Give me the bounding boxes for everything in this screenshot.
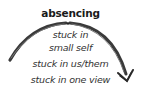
arc-top-dot-icon: [67, 22, 69, 24]
item-small-self-line1: stuck in: [0, 29, 141, 40]
item-small-self-line2: small self: [0, 42, 141, 53]
item-one-view: stuck in one view: [0, 74, 141, 85]
item-us-them: stuck in us/them: [0, 58, 141, 69]
diagram-title: absencing: [0, 7, 141, 19]
